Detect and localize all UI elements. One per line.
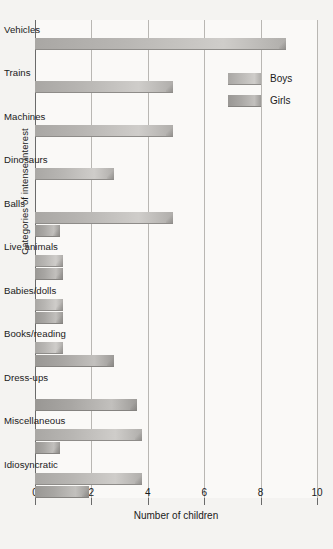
x-axis-tick bbox=[261, 498, 262, 505]
x-axis-tick bbox=[148, 498, 149, 505]
category-label: Vehicles bbox=[4, 24, 40, 35]
bar-girls bbox=[35, 442, 60, 454]
bar-boys bbox=[35, 473, 142, 485]
x-axis-tick bbox=[317, 498, 318, 505]
legend-item-girls: Girls bbox=[228, 94, 292, 107]
bar-boys bbox=[35, 429, 142, 441]
bar-boys bbox=[35, 212, 173, 224]
legend-swatch-boys bbox=[228, 73, 261, 85]
category-label: Idiosyncratic bbox=[4, 459, 58, 470]
bar-boys bbox=[35, 125, 173, 137]
legend-label-girls: Girls bbox=[270, 95, 291, 106]
category-label: Dress-ups bbox=[4, 372, 48, 383]
bar-boys bbox=[35, 168, 114, 180]
category-label: Balls bbox=[4, 198, 25, 209]
category-label: Trains bbox=[4, 67, 31, 78]
y-axis-label: Categories of intense interest bbox=[19, 102, 30, 282]
category-label: Babies/dolls bbox=[4, 285, 56, 296]
gridline bbox=[204, 20, 205, 498]
legend-item-boys: Boys bbox=[228, 72, 292, 85]
x-axis-tick-label: 4 bbox=[133, 487, 163, 498]
x-axis-tick bbox=[204, 498, 205, 505]
legend-swatch-girls bbox=[228, 95, 261, 107]
bar-boys bbox=[35, 38, 286, 50]
x-axis-tick bbox=[35, 498, 36, 505]
legend-label-boys: Boys bbox=[270, 73, 292, 84]
bar-boys bbox=[35, 342, 63, 354]
category-label: Books/reading bbox=[4, 328, 66, 339]
x-axis-tick-label: 10 bbox=[302, 487, 332, 498]
category-label: Dinosaurs bbox=[4, 154, 48, 165]
gridline bbox=[317, 20, 318, 498]
bar-boys bbox=[35, 81, 173, 93]
legend: Boys Girls bbox=[228, 72, 292, 116]
category-label: Live animals bbox=[4, 241, 58, 252]
bar-chart: Categories of intense interest 0246810Ve… bbox=[0, 0, 333, 549]
x-axis-label: Number of children bbox=[35, 510, 317, 521]
x-axis-tick-label: 6 bbox=[189, 487, 219, 498]
x-axis-tick bbox=[91, 498, 92, 505]
bar-girls bbox=[35, 399, 137, 411]
bar-boys bbox=[35, 255, 63, 267]
bar-boys bbox=[35, 299, 63, 311]
x-axis-tick-label: 8 bbox=[246, 487, 276, 498]
bar-girls bbox=[35, 268, 63, 280]
bar-girls bbox=[35, 312, 63, 324]
category-label: Machines bbox=[4, 111, 45, 122]
category-label: Miscellaneous bbox=[4, 415, 65, 426]
bar-girls bbox=[35, 355, 114, 367]
bar-girls bbox=[35, 225, 60, 237]
bar-girls bbox=[35, 486, 89, 498]
